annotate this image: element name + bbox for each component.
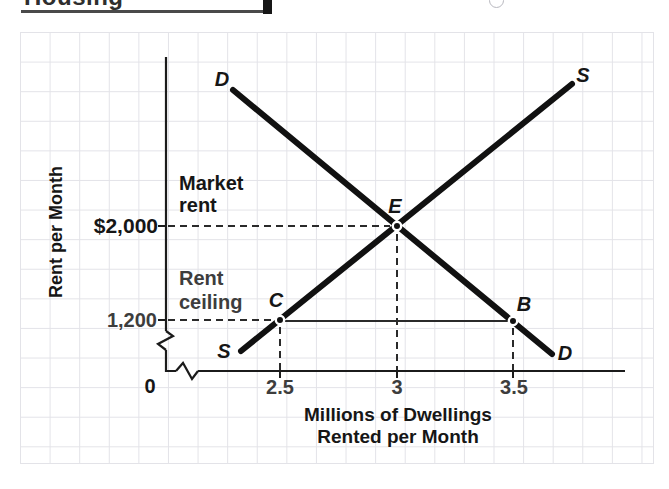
x-tick-label-3: 3 <box>372 376 422 398</box>
origin-label: 0 <box>135 375 165 397</box>
y-tick-label-2000: $2,000 <box>75 215 158 237</box>
y-axis-lower <box>166 350 176 371</box>
x-axis-break <box>176 363 198 379</box>
point-B-label: B <box>515 293 533 315</box>
y-axis-break <box>158 331 173 350</box>
rent-ceiling-annotation-line2: ceiling <box>179 291 242 313</box>
demand-label-bottom: D <box>556 342 574 364</box>
market-rent-annotation-line1: Market <box>179 172 243 194</box>
x-tick-label-2-5: 2.5 <box>255 376 305 398</box>
point-C-label: C <box>267 289 285 311</box>
market-rent-annotation-line2: rent <box>179 194 217 216</box>
figure-rent-ceiling: Housing <box>0 0 669 489</box>
demand-curve <box>233 90 552 354</box>
y-axis-title: Rent per Month <box>45 132 67 332</box>
equilibrium-point-label: E <box>386 195 404 217</box>
rent-ceiling-annotation-line1: Rent <box>179 267 223 289</box>
supply-label-bottom: S <box>215 340 233 362</box>
y-tick-label-1200: 1,200 <box>79 309 157 331</box>
x-axis-title-line1: Millions of Dwellings <box>238 404 558 426</box>
supply-label-top: S <box>574 64 592 86</box>
x-tick-label-3-5: 3.5 <box>489 376 539 398</box>
point-C-dot <box>276 316 284 324</box>
point-B-dot <box>509 317 517 325</box>
demand-label-top: D <box>213 68 231 90</box>
x-axis-title-line2: Rented per Month <box>238 426 558 448</box>
point-E-dot <box>393 222 401 230</box>
